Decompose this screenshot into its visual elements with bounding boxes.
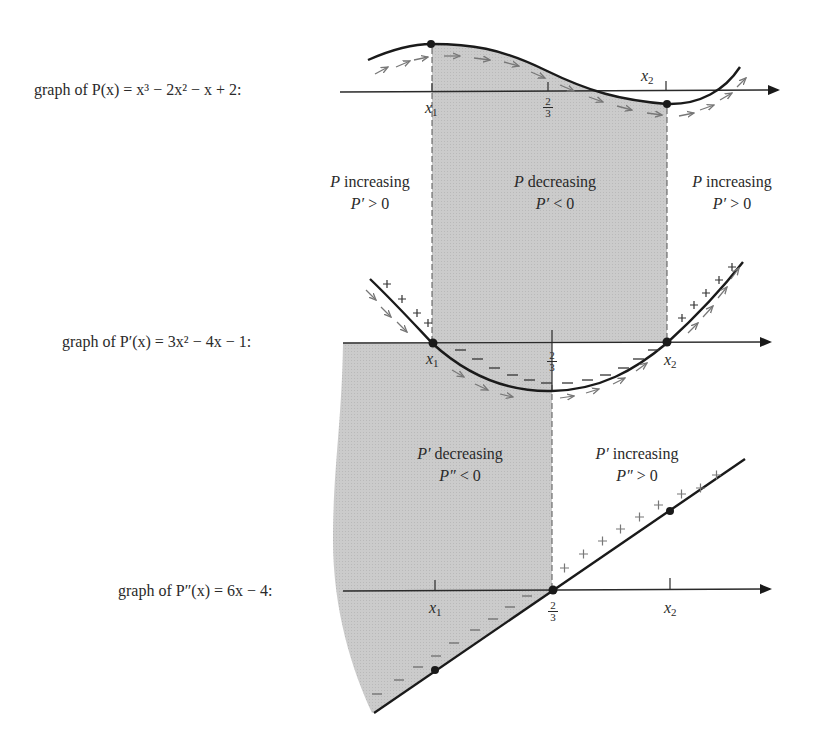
point-p2-root (549, 586, 558, 595)
tick-label-p-two-thirds: 23 (543, 96, 553, 119)
point-p-local-max (427, 40, 435, 48)
region-p-decreasing: P decreasing P′ < 0 (490, 171, 620, 215)
tick-label-p2-x2: x2 (664, 600, 677, 618)
tick-label-p2-two-thirds: 23 (548, 600, 558, 623)
axis-p (340, 90, 778, 92)
shade-p1-decreasing (333, 343, 552, 713)
region-p1-decreasing: P′ decreasing P″ < 0 (395, 443, 525, 487)
region-p1-increasing: P′ increasing P″ > 0 (572, 443, 702, 487)
region-p-increasing-left: P increasing P′ > 0 (310, 171, 430, 215)
tick-label-p1-two-thirds: 23 (547, 350, 557, 373)
tick-label-p2-x1: x1 (429, 600, 442, 618)
point-p-local-min (663, 100, 671, 108)
label-graph-p1: graph of P′(x) = 3x² − 4x − 1: (62, 334, 251, 350)
label-graph-p2: graph of P″(x) = 6x − 4: (118, 583, 272, 599)
point-p2-at-x2 (666, 507, 674, 515)
point-p1-root-x1 (429, 339, 438, 348)
axis-p1 (343, 342, 770, 343)
region-p-increasing-right: P increasing P′ > 0 (672, 171, 792, 215)
diagram-canvas (0, 0, 816, 749)
point-p1-root-x2 (663, 338, 672, 347)
tick-label-p-x2: x2 (641, 68, 654, 86)
tick-label-p-x1: x1 (425, 100, 438, 118)
label-graph-p: graph of P(x) = x³ − 2x² − x + 2: (34, 82, 241, 98)
tick-label-p1-x2: x2 (664, 352, 677, 370)
point-p2-at-x1 (431, 666, 439, 674)
tick-label-p1-x1: x1 (426, 351, 439, 369)
